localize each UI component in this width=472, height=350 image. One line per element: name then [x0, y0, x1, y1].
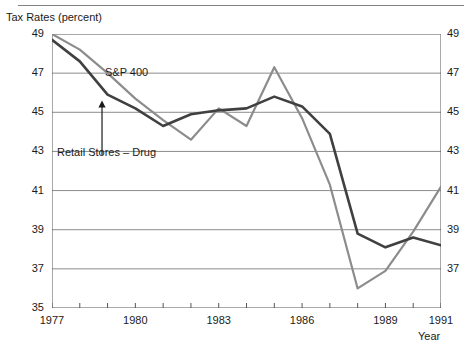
x-tick-label-1980: 1980	[115, 314, 155, 326]
x-tick-label-1986: 1986	[282, 314, 322, 326]
y-tick-label-right-43: 43	[447, 144, 472, 156]
x-tick-label-1991: 1991	[421, 314, 461, 326]
x-tick-label-1983: 1983	[199, 314, 239, 326]
series-label-retail-stores-drug: Retail Stores – Drug	[57, 146, 156, 158]
y-tick-label-right-41: 41	[447, 184, 472, 196]
y-tick-label-left-35: 35	[18, 301, 44, 313]
y-tick-label-left-49: 49	[18, 27, 44, 39]
y-tick-label-left-43: 43	[18, 144, 44, 156]
x-tick-label-1989: 1989	[365, 314, 405, 326]
y-tick-label-right-37: 37	[447, 262, 472, 274]
y-tick-label-right-49: 49	[447, 27, 472, 39]
y-tick-label-right-39: 39	[447, 223, 472, 235]
series-label-snp-400: S&P 400	[105, 66, 148, 78]
x-tick-marks-group	[52, 303, 441, 308]
y-axis-title: Tax Rates (percent)	[6, 11, 102, 23]
y-tick-label-left-39: 39	[18, 223, 44, 235]
y-tick-label-right-45: 45	[447, 105, 472, 117]
top-divider-rule	[18, 5, 464, 6]
chart-page: Tax Rates (percent) Year 353739414345474…	[0, 0, 472, 350]
y-tick-label-right-47: 47	[447, 66, 472, 78]
y-tick-label-left-45: 45	[18, 105, 44, 117]
y-tick-label-left-41: 41	[18, 184, 44, 196]
x-axis-title: Year	[418, 330, 440, 342]
y-tick-label-left-37: 37	[18, 262, 44, 274]
x-tick-label-1977: 1977	[32, 314, 72, 326]
y-tick-label-left-47: 47	[18, 66, 44, 78]
